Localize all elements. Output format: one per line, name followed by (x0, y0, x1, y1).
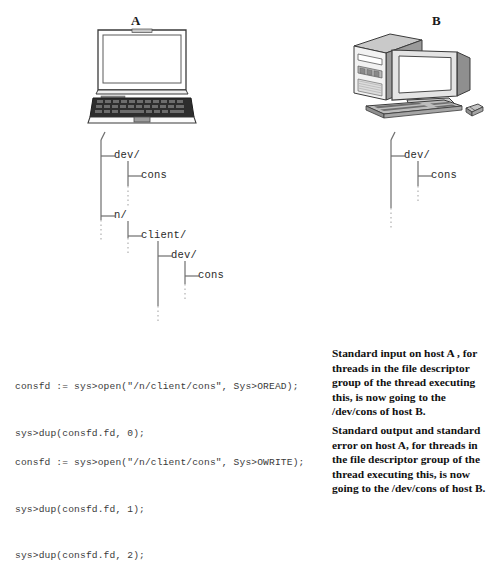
desktop-computer-icon (344, 30, 484, 126)
description-line: the file descriptor group of the (332, 452, 503, 467)
description-line: Standard output and standard (332, 423, 503, 438)
filesystem-tree-host-b: dev/ cons (378, 128, 503, 238)
description-line: threads in the file descriptor (332, 361, 503, 376)
code-block-owrite: consfd := sys>open("/n/client/cons", Sys… (15, 424, 304, 564)
description-stdin: Standard input on host A , for threads i… (332, 346, 503, 419)
tree-a-node-client: client/ (141, 229, 187, 241)
description-line: thread executing this, is now (332, 467, 503, 482)
description-line: Standard input on host A , for (332, 346, 503, 361)
code-line: consfd := sys>open("/n/client/cons", Sys… (15, 455, 304, 471)
tree-a-node-cons-inner: cons (198, 269, 224, 281)
host-label-a: A (131, 13, 141, 29)
code-line: sys>dup(consfd.fd, 1); (15, 502, 304, 518)
description-line: error on host A, for threads in (332, 438, 503, 453)
tree-b-node-dev: dev/ (404, 149, 430, 161)
description-line: /dev/cons of host B. (332, 404, 503, 419)
host-label-b: B (432, 13, 441, 29)
laptop-computer-icon (84, 28, 200, 126)
description-line: this, is now going to the (332, 390, 503, 405)
tree-b-node-cons: cons (431, 169, 457, 181)
filesystem-tree-host-a: dev/ cons n/ client/ dev/ cons (88, 128, 278, 328)
tree-a-node-dev: dev/ (114, 149, 140, 161)
tree-b-connectors (378, 128, 503, 238)
code-line: sys>dup(consfd.fd, 2); (15, 548, 304, 564)
description-stdout-stderr: Standard output and standard error on ho… (332, 423, 503, 496)
tree-a-node-cons: cons (141, 169, 167, 181)
tree-a-node-n: n/ (114, 209, 127, 221)
code-line: consfd := sys>open("/n/client/cons", Sys… (15, 379, 299, 395)
description-line: going to the /dev/cons of host B. (332, 481, 503, 496)
tree-a-node-dev-inner: dev/ (171, 249, 197, 261)
description-line: group of the thread executing (332, 375, 503, 390)
